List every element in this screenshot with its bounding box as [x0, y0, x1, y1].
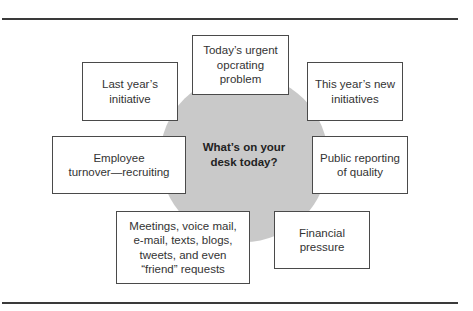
- node-communications: Meetings, voice mail, e-mail, texts, blo…: [116, 211, 250, 284]
- node-public-reporting: Public reporting of quality: [312, 136, 408, 194]
- node-financial-pressure: Financial pressure: [274, 211, 370, 269]
- node-employee-turnover: Employee turnover—recruiting: [52, 136, 186, 194]
- node-new-initiatives: This year’s new initiatives: [307, 62, 403, 121]
- bottom-rule: [2, 302, 458, 304]
- center-label: What’s on your desk today?: [194, 140, 294, 170]
- node-last-years-initiative: Last year’s initiative: [82, 62, 178, 121]
- top-rule: [2, 18, 458, 20]
- node-urgent-operating-problem: Today’s urgent opcrating problem: [192, 35, 289, 95]
